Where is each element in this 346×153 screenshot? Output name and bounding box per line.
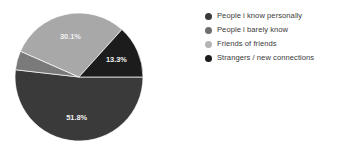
legend-item-label: Strangers / new connections <box>217 54 314 62</box>
chart-legend: People i know personally People i barely… <box>205 9 345 65</box>
legend-swatch-icon <box>205 27 212 34</box>
pie-chart-figure: 51.8%30.1%13.3% People i know personally… <box>0 0 346 153</box>
legend-swatch-icon <box>205 55 212 62</box>
pie-slice-data-label: 30.1% <box>60 32 81 41</box>
legend-item-people-i-know-personally[interactable]: People i know personally <box>205 9 345 23</box>
legend-item-label: People i barely know <box>217 26 288 34</box>
pie-slice-data-label: 51.8% <box>66 113 87 122</box>
pie-slice-data-label: 13.3% <box>106 55 127 64</box>
legend-item-people-i-barely-know[interactable]: People i barely know <box>205 23 345 37</box>
legend-item-label: Friends of friends <box>217 40 277 48</box>
pie-chart-plot-area: 51.8%30.1%13.3% <box>14 12 144 142</box>
legend-swatch-icon <box>205 41 212 48</box>
legend-item-strangers-new-connections[interactable]: Strangers / new connections <box>205 51 345 65</box>
legend-swatch-icon <box>205 13 212 20</box>
legend-item-label: People i know personally <box>217 12 302 20</box>
pie-chart-svg: 51.8%30.1%13.3% <box>14 12 144 142</box>
legend-item-friends-of-friends[interactable]: Friends of friends <box>205 37 345 51</box>
pie-slice[interactable] <box>15 70 143 141</box>
